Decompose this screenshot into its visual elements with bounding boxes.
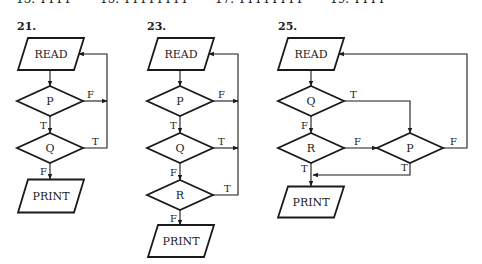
branch-label: T [218, 136, 225, 147]
branch-label: F [40, 166, 47, 177]
node-label: READ [34, 48, 67, 61]
node-label: Q [306, 95, 315, 108]
problem-number: 25. [278, 20, 297, 33]
node-label: PRINT [293, 196, 331, 209]
node-label: P [406, 142, 414, 155]
branch-label: T [350, 89, 357, 100]
flowchart-canvas: 21.TFFTREADPQPRINT23.TFFFTTREADPQRPRINT2… [0, 0, 482, 264]
branch-label: T [92, 136, 99, 147]
node-label: Q [175, 142, 184, 155]
flowchart-25: 25.FTTFFTREADQRPPRINT [278, 20, 467, 218]
flowchart-21: 21.TFFTREADPQPRINT [17, 20, 107, 213]
branch-label: F [301, 120, 308, 131]
node-label: PRINT [163, 235, 201, 248]
flow-arrow [209, 54, 238, 195]
node-label: Q [45, 142, 54, 155]
node-label: P [176, 95, 184, 108]
branch-label: T [170, 120, 177, 131]
branch-label: F [170, 213, 177, 224]
problem-number: 23. [147, 20, 166, 33]
node-label: R [176, 189, 185, 202]
node-label: P [46, 95, 54, 108]
branch-label: T [40, 120, 47, 131]
node-label: READ [164, 48, 197, 61]
branch-label: T [301, 163, 308, 174]
node-label: PRINT [33, 190, 71, 203]
flow-arrow [313, 163, 410, 175]
branch-label: F [218, 89, 225, 100]
branch-label: F [170, 167, 177, 178]
problem-number: 21. [17, 20, 36, 33]
branch-label: F [87, 89, 94, 100]
flowchart-23: 23.TFFFTTREADPQRPRINT [147, 20, 238, 257]
branch-label: F [450, 136, 457, 147]
branch-label: T [224, 183, 231, 194]
node-label: READ [294, 48, 327, 61]
flow-arrow [344, 101, 410, 133]
branch-label: T [401, 162, 408, 173]
node-label: R [307, 142, 316, 155]
branch-label: F [354, 136, 361, 147]
